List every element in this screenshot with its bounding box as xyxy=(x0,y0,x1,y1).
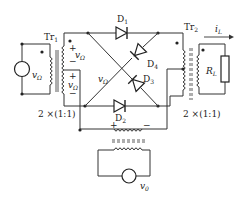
current-label: iL xyxy=(215,24,222,35)
tr2-label: Tr2 xyxy=(184,22,198,33)
minus-sign: − xyxy=(143,120,151,130)
minus-sign: − xyxy=(69,56,77,66)
tr1-ratio-label: 2 ×(1:1) xyxy=(38,109,76,119)
tr2-ratio-label: 2 ×(1:1) xyxy=(183,109,221,119)
d1-label: D1 xyxy=(117,14,128,25)
minus-sign: − xyxy=(69,88,77,98)
tr1-label: Tr1 xyxy=(44,32,58,43)
current-arrow-icon xyxy=(204,35,234,40)
diode-d2-icon xyxy=(114,100,125,112)
ring-modulator-diagram: vΩ Tr1 + vΩ − + vΩ − 2 ×(1:1) D1 xyxy=(0,0,245,201)
d3-label: D3 xyxy=(143,74,154,85)
tr2-secondary-coil-icon xyxy=(197,48,205,94)
ac-source-zero-icon xyxy=(122,169,136,183)
source-omega-label: vΩ xyxy=(32,70,42,81)
input-source-loop: vΩ xyxy=(15,42,51,95)
load-resistor-icon xyxy=(221,56,229,82)
plus-sign: + xyxy=(110,120,118,130)
source-zero-label: v0 xyxy=(140,181,149,192)
cross-voltage-label: vΩ xyxy=(98,74,108,85)
load-label: RL xyxy=(205,66,217,77)
diode-d1-icon xyxy=(116,27,127,39)
tr3-secondary-coil-icon xyxy=(114,148,142,150)
d4-label: D4 xyxy=(147,59,158,70)
ac-source-omega-icon xyxy=(15,62,30,77)
